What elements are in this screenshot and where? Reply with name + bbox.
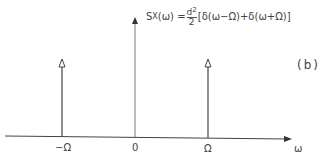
eq-frac-den: 2	[189, 18, 195, 27]
tick-label-zero: 0	[132, 142, 138, 153]
ordinate-arrowhead-icon	[132, 17, 138, 24]
omega-axis	[5, 136, 288, 139]
impulse-arrowhead-icon	[59, 59, 65, 67]
axis-arrowhead-icon	[284, 136, 292, 142]
impulse-arrowhead-icon	[205, 59, 211, 67]
axis-variable-label: ω	[294, 143, 302, 154]
panel-label: (b)	[297, 58, 320, 72]
eq-fraction: d2 2	[187, 6, 197, 27]
eq-frac-num-sup: 2	[192, 6, 196, 14]
eq-rhs: [δ(ω−Ω)+δ(ω+Ω)]	[198, 11, 291, 22]
eq-lhs-arg: (ω) =	[158, 11, 186, 22]
tick-label-neg-omega: −Ω	[55, 142, 71, 153]
tick-label-omega: Ω	[204, 143, 212, 154]
spectral-density-equation: SX(ω) = d2 2 [δ(ω−Ω)+δ(ω+Ω)]	[146, 6, 291, 27]
